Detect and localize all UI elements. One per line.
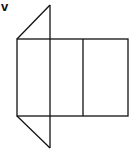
- top-triangle-edge: [17, 5, 50, 39]
- bottom-triangle-edge: [17, 116, 50, 148]
- outer-rectangle: [17, 39, 128, 116]
- prism-net-diagram: [0, 0, 132, 151]
